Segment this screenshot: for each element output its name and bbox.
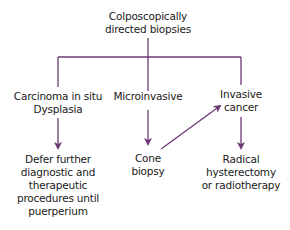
branch-invasive-node: Invasive cancer: [211, 88, 271, 114]
branch-carcinoma-node: Carcinoma in situ Dysplasia: [8, 90, 108, 116]
outcome-cone-biopsy-node: Cone biopsy: [123, 152, 173, 178]
branch-microinvasive-node: Microinvasive: [108, 90, 188, 103]
outcome-defer-node: Defer further diagnostic and therapeutic…: [8, 153, 108, 218]
outcome-radical-node: Radical hysterectomy or radiotherapy: [196, 153, 286, 192]
root-node: Colposcopically directed biopsies: [98, 10, 198, 36]
